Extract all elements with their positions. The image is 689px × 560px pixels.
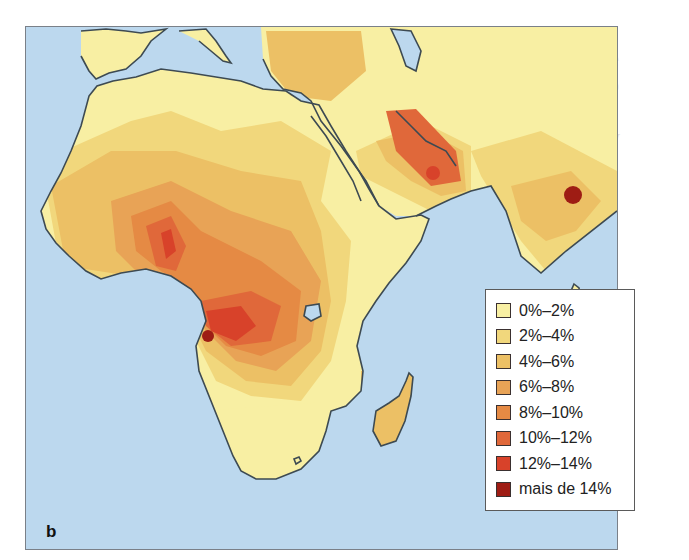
legend-label: 12%–14% bbox=[519, 455, 592, 473]
legend-item: 12%–14% bbox=[496, 451, 634, 477]
legend-item: 8%–10% bbox=[496, 400, 634, 426]
legend-swatch bbox=[496, 456, 511, 471]
legend-label: 0%–2% bbox=[519, 302, 574, 320]
panel-label: b bbox=[46, 522, 56, 542]
legend-swatch bbox=[496, 303, 511, 318]
legend-label: 8%–10% bbox=[519, 404, 583, 422]
legend-swatch bbox=[496, 329, 511, 344]
legend-swatch bbox=[496, 405, 511, 420]
legend-swatch bbox=[496, 482, 511, 497]
legend-label: 10%–12% bbox=[519, 429, 592, 447]
legend-item: 2%–4% bbox=[496, 324, 634, 350]
legend-item: 4%–6% bbox=[496, 349, 634, 375]
legend-label: 4%–6% bbox=[519, 353, 574, 371]
legend-label: 2%–4% bbox=[519, 327, 574, 345]
legend-swatch bbox=[496, 431, 511, 446]
map-legend: 0%–2% 2%–4% 4%–6% 6%–8% 8%–10% 10%–12% 1… bbox=[485, 289, 635, 511]
legend-label: 6%–8% bbox=[519, 378, 574, 396]
legend-item: mais de 14% bbox=[496, 477, 634, 503]
legend-item: 6%–8% bbox=[496, 375, 634, 401]
legend-item: 0%–2% bbox=[496, 298, 634, 324]
legend-label: mais de 14% bbox=[519, 480, 612, 498]
legend-swatch bbox=[496, 380, 511, 395]
legend-item: 10%–12% bbox=[496, 426, 634, 452]
legend-swatch bbox=[496, 354, 511, 369]
